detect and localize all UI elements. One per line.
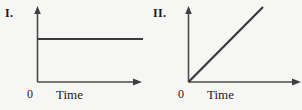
origin-label-one: 0	[27, 88, 33, 100]
x-axis-arrow-icon-two	[292, 79, 301, 86]
x-axis-title-one: Time	[56, 88, 83, 101]
data-line-linear	[189, 7, 264, 82]
x-axis-title-two: Time	[207, 88, 234, 101]
graph-panel-one: I. 0 Time	[0, 0, 151, 110]
two-panel-graph-figure: I. 0 Time II. 0 Time	[0, 0, 302, 110]
origin-label-two: 0	[178, 88, 184, 100]
x-axis-arrow-icon-one	[133, 79, 142, 86]
y-axis-arrow-icon-two	[185, 6, 192, 14]
graph-panel-two: II. 0 Time	[151, 0, 302, 110]
y-axis-arrow-icon-one	[34, 6, 41, 14]
